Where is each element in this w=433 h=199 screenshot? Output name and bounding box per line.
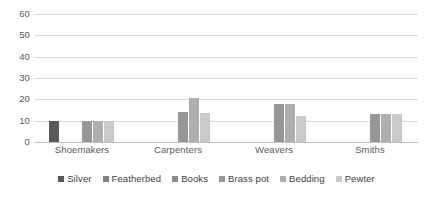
legend-swatch-icon: [58, 176, 64, 182]
bar-slot: [381, 14, 392, 142]
bar-slot: [60, 14, 71, 142]
gridline-0: [34, 142, 418, 143]
y-axis-tick-label: 20: [19, 95, 30, 105]
y-axis-tick-label: 10: [19, 116, 30, 126]
bar-slot: [370, 14, 381, 142]
bar-slot: [93, 14, 104, 142]
bar-slot: [156, 14, 167, 142]
bar[interactable]: [104, 121, 114, 142]
bar-slot: [104, 14, 115, 142]
bar-slot: [241, 14, 252, 142]
legend-item-label: Brass pot: [228, 174, 269, 184]
chart-legend: SilverFeatherbedBooksBrass potBeddingPew…: [0, 174, 433, 184]
bar-group: [226, 14, 322, 142]
bar[interactable]: [296, 116, 306, 142]
bar-slot: [359, 14, 370, 142]
bar-slot: [189, 14, 200, 142]
bar[interactable]: [274, 104, 284, 142]
bar[interactable]: [370, 114, 380, 142]
bar-slot: [200, 14, 211, 142]
x-axis-tick-label: Smiths: [355, 145, 385, 155]
bar[interactable]: [49, 121, 59, 142]
bar-chart: 0102030405060 ShoemakersCarpentersWeaver…: [0, 0, 433, 199]
x-axis-tick-label: Shoemakers: [55, 145, 109, 155]
legend-item[interactable]: Silver: [58, 174, 91, 184]
bar-slot: [167, 14, 178, 142]
bar-slot: [348, 14, 359, 142]
y-axis-tick-label: 60: [19, 9, 30, 19]
x-axis-tick-label: Carpenters: [154, 145, 202, 155]
bar[interactable]: [381, 114, 391, 142]
x-axis-tick-label: Weavers: [255, 145, 293, 155]
legend-swatch-icon: [336, 176, 342, 182]
legend-item[interactable]: Bedding: [280, 174, 325, 184]
legend-item[interactable]: Brass pot: [219, 174, 269, 184]
bar-slot: [296, 14, 307, 142]
bar[interactable]: [392, 114, 402, 142]
bar-group: [34, 14, 130, 142]
y-axis-tick-label: 0: [25, 137, 30, 147]
bar-slot: [337, 14, 348, 142]
bar-slot: [145, 14, 156, 142]
bars-layer: [34, 14, 418, 142]
y-axis-tick-label: 50: [19, 31, 30, 41]
bar-slot: [178, 14, 189, 142]
legend-item-label: Silver: [67, 174, 91, 184]
bar[interactable]: [93, 121, 103, 142]
y-axis-tick-label: 30: [19, 73, 30, 83]
x-axis: ShoemakersCarpentersWeaversSmiths: [34, 145, 418, 161]
bar[interactable]: [178, 112, 188, 142]
bar-group: [322, 14, 418, 142]
legend-item-label: Books: [181, 174, 208, 184]
legend-item-label: Pewter: [345, 174, 375, 184]
bar-slot: [71, 14, 82, 142]
bar[interactable]: [200, 113, 210, 142]
legend-item[interactable]: Pewter: [336, 174, 375, 184]
bar[interactable]: [285, 104, 295, 142]
bar[interactable]: [82, 121, 92, 142]
bar-slot: [49, 14, 60, 142]
bar-slot: [285, 14, 296, 142]
legend-item[interactable]: Featherbed: [103, 174, 162, 184]
bar-slot: [82, 14, 93, 142]
y-axis-tick-label: 40: [19, 52, 30, 62]
bar-slot: [263, 14, 274, 142]
bar-slot: [252, 14, 263, 142]
legend-item-label: Featherbed: [112, 174, 162, 184]
y-axis: 0102030405060: [0, 14, 30, 142]
legend-swatch-icon: [103, 176, 109, 182]
bar-group: [130, 14, 226, 142]
legend-swatch-icon: [172, 176, 178, 182]
legend-swatch-icon: [280, 176, 286, 182]
legend-item[interactable]: Books: [172, 174, 208, 184]
bar-slot: [274, 14, 285, 142]
plot-area: [34, 14, 418, 142]
bar[interactable]: [189, 98, 199, 142]
legend-item-label: Bedding: [289, 174, 325, 184]
bar-slot: [392, 14, 403, 142]
legend-swatch-icon: [219, 176, 225, 182]
